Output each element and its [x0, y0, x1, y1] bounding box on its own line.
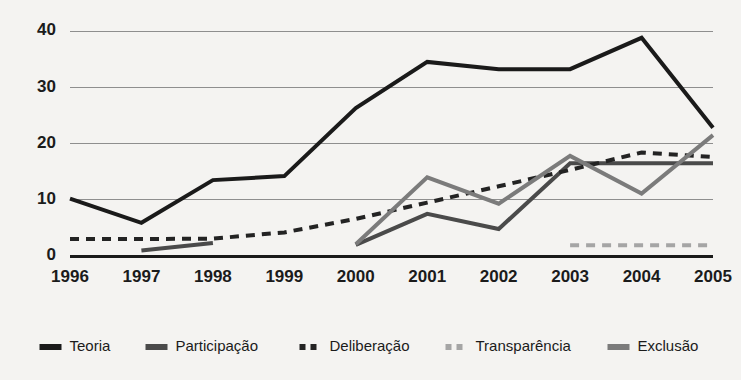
- gridlines-group: [70, 31, 713, 256]
- series-line: [356, 135, 713, 244]
- series-group: [70, 38, 713, 251]
- x-tick-label: 2003: [551, 267, 589, 286]
- chart-canvas: 010203040 199619971998199920002001200220…: [0, 0, 741, 380]
- x-axis-tick-labels: 1996199719981999200020012002200320042005: [51, 267, 732, 286]
- x-tick-label: 2000: [337, 267, 375, 286]
- legend-label: Exclusão: [638, 337, 699, 354]
- chart-legend: TeoriaParticipaçãoDeliberaçãoTransparênc…: [40, 337, 699, 354]
- y-tick-label: 10: [37, 189, 56, 208]
- legend-item[interactable]: Participação: [146, 337, 259, 354]
- series-line: [356, 163, 713, 245]
- legend-label: Transparência: [476, 337, 572, 354]
- x-tick-label: 2002: [480, 267, 518, 286]
- legend-label: Teoria: [70, 337, 112, 354]
- legend-item[interactable]: Deliberação: [300, 337, 410, 354]
- series-line: [141, 243, 213, 250]
- y-axis-tick-labels: 010203040: [37, 20, 56, 264]
- legend-label: Participação: [176, 337, 259, 354]
- x-tick-label: 2001: [408, 267, 446, 286]
- x-tick-label: 1997: [123, 267, 161, 286]
- x-tick-label: 1996: [51, 267, 89, 286]
- legend-label: Deliberação: [330, 337, 410, 354]
- series-line: [70, 153, 713, 240]
- y-tick-label: 30: [37, 77, 56, 96]
- line-chart-figure: 010203040 199619971998199920002001200220…: [0, 0, 741, 380]
- legend-item[interactable]: Transparência: [446, 337, 572, 354]
- series-line: [70, 38, 713, 223]
- x-tick-label: 2004: [623, 267, 661, 286]
- y-tick-label: 20: [37, 133, 56, 152]
- x-tick-label: 2005: [694, 267, 732, 286]
- legend-item[interactable]: Teoria: [40, 337, 112, 354]
- legend-item[interactable]: Exclusão: [608, 337, 699, 354]
- x-tick-label: 1999: [265, 267, 303, 286]
- y-tick-label: 40: [37, 20, 56, 39]
- y-tick-label: 0: [47, 245, 56, 264]
- x-tick-label: 1998: [194, 267, 232, 286]
